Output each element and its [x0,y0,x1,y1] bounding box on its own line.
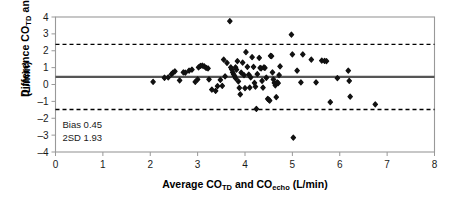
y-axis-label-units: (L/min) [16,24,34,134]
data-point [235,59,239,64]
x-axis-tick-label: 6 [337,159,343,170]
data-point [220,83,224,88]
data-point [346,68,350,73]
data-point [177,78,181,83]
x-axis-tick-label: 5 [290,159,296,170]
x-axis-tick-label: 7 [384,159,390,170]
sd-annotation: 2SD 1.93 [63,132,103,143]
data-point [250,55,254,60]
data-point [348,94,352,99]
data-point [243,86,247,91]
y-axis-tick-label: –2 [37,113,49,124]
y-axis-tick-label: 2 [43,45,49,56]
data-point [299,80,303,85]
data-point [295,68,299,73]
bias-annotation: Bias 0.45 [63,119,103,130]
x-axis-tick-label: 2 [147,159,153,170]
x-axis-tick-label: 3 [195,159,201,170]
data-point [223,74,227,79]
data-point [166,75,170,80]
data-point [261,85,265,90]
y-axis-tick-label: –1 [37,96,49,107]
data-point [278,64,282,69]
x-label-sub-td: TD [222,183,232,192]
y-axis-tick-label: 1 [43,62,49,73]
x-axis-tick-label: 4 [242,159,248,170]
x-axis-tick-label: 1 [100,159,106,170]
y-axis-tick-label: 3 [43,28,49,39]
y-label-text-part2: and CO [19,0,31,15]
data-point [301,52,305,57]
data-point [237,85,241,90]
y-label-units-text: (L/min) [20,62,32,97]
data-point [373,102,377,107]
y-axis-tick-label: –3 [37,130,49,141]
y-axis-tick-label: 0 [43,79,49,90]
data-point [251,64,255,69]
data-point [228,19,232,24]
data-point [245,64,249,69]
data-point [289,32,293,37]
data-point [291,135,295,140]
y-axis-tick-label: 4 [43,12,49,23]
plot-frame [56,17,435,152]
x-label-text-part2: and CO [232,178,272,190]
data-point [347,78,351,83]
bland-altman-figure: –4–3–2–101234012345678Bias 0.452SD 1.93 … [0,0,449,201]
data-point [244,50,248,55]
y-axis-tick-label: –4 [37,147,49,158]
data-point [255,72,259,77]
data-point [328,100,332,105]
data-point [309,57,313,62]
data-point [274,95,278,100]
data-point [240,60,244,65]
data-point [270,70,274,75]
data-point [221,57,225,62]
plot-canvas: –4–3–2–101234012345678Bias 0.452SD 1.93 [0,0,449,201]
data-point [151,79,155,84]
data-point [254,106,258,111]
x-label-sub-echo: echo [272,183,290,192]
data-point [248,85,252,90]
data-point [225,60,229,65]
data-point [257,55,261,60]
data-point [260,78,264,83]
x-label-text-part1: Average CO [162,178,222,190]
data-point [238,92,242,97]
data-point [218,77,222,82]
x-label-text-part3: (L/min) [290,178,328,190]
x-axis-label: Average COTD and COecho (L/min) [55,178,435,190]
data-point [290,52,294,57]
x-axis-tick-label: 0 [53,159,59,170]
data-point [314,80,318,85]
x-axis-tick-label: 8 [432,159,438,170]
